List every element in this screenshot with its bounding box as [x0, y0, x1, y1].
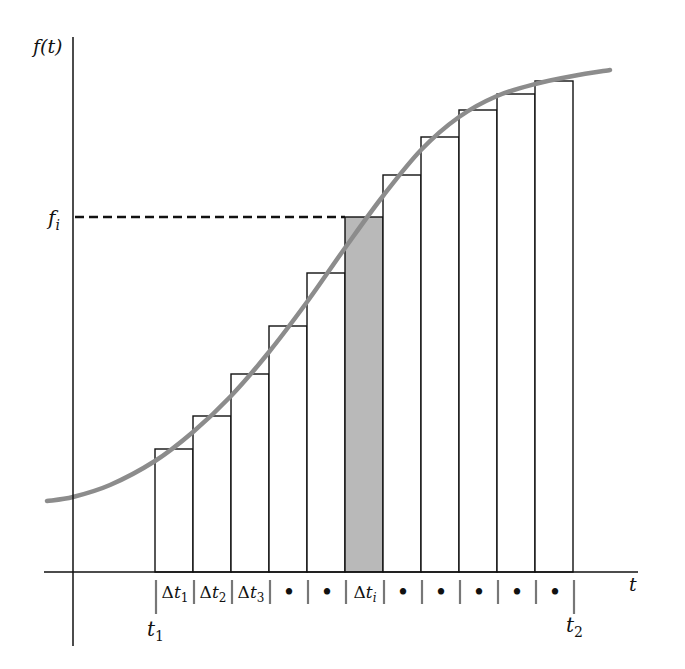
- interval-labels: Δt1Δt2Δt3••Δti•••••: [162, 581, 561, 605]
- riemann-sum-figure: Δt1Δt2Δt3••Δti••••• f(t) t fi t1 t2: [0, 0, 685, 669]
- rectangle: [155, 449, 193, 572]
- rectangles-group: [155, 81, 573, 572]
- shaded-rectangle: [345, 217, 383, 572]
- delta-t-label: Δt2: [200, 582, 227, 605]
- ellipsis-dot: •: [283, 581, 295, 602]
- delta-t-label: Δt1: [162, 582, 189, 605]
- rectangle: [231, 374, 269, 572]
- x-axis-label: t: [629, 573, 637, 595]
- rectangle: [535, 81, 573, 572]
- ellipsis-dot: •: [549, 581, 561, 602]
- t2-label: t2: [566, 613, 583, 640]
- fi-label: fi: [46, 206, 60, 233]
- ellipsis-dot: •: [397, 581, 409, 602]
- delta-t-label: Δti: [354, 582, 377, 605]
- delta-t-label: Δt3: [238, 582, 265, 605]
- ellipsis-dot: •: [321, 581, 333, 602]
- ellipsis-dot: •: [511, 581, 523, 602]
- ellipsis-dot: •: [473, 581, 485, 602]
- t1-label: t1: [147, 617, 164, 644]
- rectangle: [421, 137, 459, 572]
- rectangle: [269, 326, 307, 572]
- rectangle: [193, 416, 231, 572]
- rectangle: [383, 175, 421, 572]
- rectangle: [307, 273, 345, 572]
- rectangle: [459, 110, 497, 572]
- y-axis-label: f(t): [31, 35, 63, 57]
- rectangle: [497, 94, 535, 572]
- ellipsis-dot: •: [435, 581, 447, 602]
